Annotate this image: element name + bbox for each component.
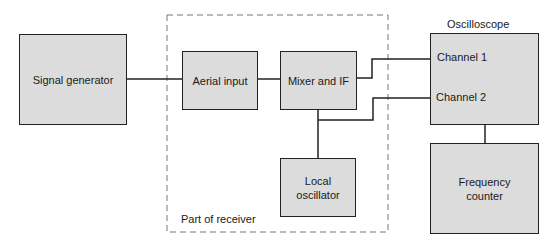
oscilloscope-title: Oscilloscope <box>447 18 509 30</box>
channel-1-label: Channel 1 <box>437 51 487 63</box>
receiver-group-label: Part of receiver <box>181 213 256 225</box>
signal-generator-label: Signal generator <box>33 73 114 87</box>
frequency-counter-block: Frequency counter <box>430 143 539 234</box>
aerial-input-block: Aerial input <box>182 51 258 110</box>
frequency-counter-label-2: counter <box>466 189 503 203</box>
local-oscillator-label-1: Local <box>305 174 331 188</box>
mixer-if-block: Mixer and IF <box>280 51 357 110</box>
local-oscillator-label-2: oscillator <box>296 188 339 202</box>
channel-2-label: Channel 2 <box>436 91 486 103</box>
frequency-counter-label-1: Frequency <box>459 175 511 189</box>
aerial-input-label: Aerial input <box>192 74 247 88</box>
signal-generator-block: Signal generator <box>19 34 127 125</box>
oscilloscope-block <box>430 33 539 125</box>
mixer-if-label: Mixer and IF <box>288 74 349 88</box>
local-oscillator-block: Local oscillator <box>280 158 356 217</box>
